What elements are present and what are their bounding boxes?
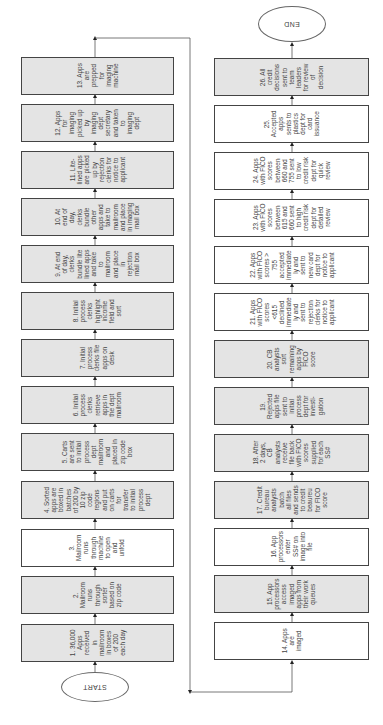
process-step-text: 16. AppprocessorsenterSS# onimage intofi… <box>270 531 313 562</box>
text-line: initial <box>288 393 295 418</box>
text-line: accepted <box>277 250 284 279</box>
process-step-text: 14. Appsareimaged <box>281 629 303 654</box>
process-step-text: 15. Appprocessorsaccessimagedapps fromth… <box>266 578 316 609</box>
text-line: zip code <box>116 582 123 608</box>
text-line: process <box>295 393 302 418</box>
text-line: are <box>288 629 295 654</box>
text-line: ly and <box>291 297 298 326</box>
text-line: 16. App <box>270 531 277 562</box>
text-line: regions <box>94 487 101 513</box>
text-line: mail box <box>134 202 141 231</box>
text-line: received <box>83 630 90 657</box>
text-line: review <box>324 204 331 232</box>
text-line: mailroom <box>105 249 112 278</box>
process-step-text: 24. Appswith FICOscoresbetween660 and755… <box>252 157 331 185</box>
process-step-7: 7. Initialprocessclerks fileapps ondesk <box>21 339 174 377</box>
text-line: clerks <box>76 202 83 231</box>
text-line: imaged <box>288 578 295 609</box>
text-line: bureau <box>263 485 270 515</box>
text-line: analysts <box>270 485 277 515</box>
text-line: credit risk <box>302 204 309 232</box>
text-line: mailroom <box>116 392 123 418</box>
text-line: for review <box>302 63 309 91</box>
text-line: sent to <box>299 250 306 279</box>
text-line: Rejected <box>266 393 273 418</box>
text-line: enter <box>284 531 291 562</box>
text-line: in imaging <box>126 202 133 231</box>
process-step-text: 17. Creditbureauanalystsbatchall filesan… <box>255 485 327 515</box>
process-step-5: 5. Cartsare sentto initialprocessdeptmai… <box>21 433 174 471</box>
process-step-4: 4. Sortedapps areboxed inbatchesof 200 b… <box>21 481 174 519</box>
text-line: mail box <box>134 249 141 278</box>
text-line: 13. Apps <box>76 64 83 89</box>
text-line: decision <box>317 63 324 91</box>
process-step-11: 11. Lite-lined appsare pickedup byreject… <box>21 151 174 189</box>
text-line: leaders <box>295 63 302 91</box>
text-line: batch <box>277 485 284 515</box>
text-line: sents to <box>284 111 291 138</box>
text-line: notice to <box>112 155 119 185</box>
text-line: credit <box>266 63 273 91</box>
text-line: apps and <box>97 202 104 231</box>
text-line: bundle <box>83 202 90 231</box>
process-step-text: 19.Rejectedapps filesent toinitialproces… <box>259 393 324 418</box>
process-step-23: 23. Appswith FICOscoresbetween615 and660… <box>214 199 369 237</box>
text-line: processors <box>273 578 280 609</box>
text-line: and sends <box>292 485 299 515</box>
process-step-text: 21. Appswith FICOscores<615declinedimmed… <box>248 297 334 326</box>
process-step-24: 24. Appswith FICOscoresbetween660 and755… <box>214 152 369 190</box>
process-step-1: 1. 36,000Appsreceivedinmailroomin boxeso… <box>21 624 174 662</box>
text-line: gation <box>317 393 324 418</box>
process-step-text: 6. Initialprocessclerksretrieveapps inth… <box>72 392 122 418</box>
text-line: sent to <box>281 63 288 91</box>
process-step-text: 12. Appsforimagingpicked upbyimagingdept… <box>54 109 140 137</box>
process-step-14: 14. Appsareimaged <box>214 622 369 660</box>
process-step-text: 9. At endof day,clerksbundle litelined a… <box>54 249 140 278</box>
text-line: notice to <box>320 250 327 279</box>
text-line: are <box>83 64 90 89</box>
text-line: desk <box>108 345 115 372</box>
text-line: 22. Apps <box>248 250 255 279</box>
text-line: 10. At <box>54 202 61 231</box>
text-line: score <box>310 345 317 373</box>
text-line: with FICO <box>255 250 262 279</box>
text-line: dept for <box>302 393 309 418</box>
text-line: to initial <box>76 439 83 465</box>
text-line: investi- <box>310 393 317 418</box>
process-step-text: 20. CBanalystssortremainingapps byFICOsc… <box>266 345 316 373</box>
text-line: and place <box>112 249 119 278</box>
text-line: sort <box>116 299 123 323</box>
text-line: lined apps <box>76 155 83 185</box>
text-line: ly and <box>291 250 298 279</box>
process-step-16: 16. AppprocessorsenterSS# onimage intofi… <box>214 528 369 566</box>
end-terminal: END <box>258 6 326 42</box>
text-line: 26. All <box>259 63 266 91</box>
process-step-text: 10. Atend ofday,clerksbundleotherapps an… <box>54 202 140 231</box>
text-line: sent to <box>281 393 288 418</box>
text-line: file <box>306 531 313 562</box>
text-line: 15. App <box>266 578 273 609</box>
process-step-25: 25.Acceptedappssents toplasticsdept forc… <box>214 105 369 143</box>
text-line: 17. Credit <box>255 485 262 515</box>
process-step-text: 1. 36,000Appsreceivedinmailroomin boxeso… <box>69 630 127 657</box>
text-line: clerks for <box>105 155 112 185</box>
text-line: apps on <box>101 345 108 372</box>
end-label: END <box>284 21 300 28</box>
process-step-text: 8. Initialprocessclerkshighlightincomefi… <box>72 299 122 323</box>
process-step-20: 20. CBanalystssortremainingapps byFICOsc… <box>214 340 369 378</box>
text-line: 11. Lite- <box>69 155 76 185</box>
text-line: declined <box>277 297 284 326</box>
text-line: SS# on <box>291 531 298 562</box>
text-line: SS# <box>324 439 331 467</box>
text-line: rejection <box>98 155 105 185</box>
text-line: new card <box>306 250 313 279</box>
text-line: take to <box>105 202 112 231</box>
text-line: notice to <box>320 297 327 326</box>
text-line: of <box>310 63 317 91</box>
text-line: applicant <box>328 297 335 326</box>
text-line: apps from <box>295 578 302 609</box>
text-line: scores <box>263 297 270 326</box>
text-line: prepped <box>90 64 97 89</box>
process-step-15: 15. Appprocessorsaccessimagedapps fromth… <box>214 575 369 613</box>
text-line: applicant <box>328 250 335 279</box>
